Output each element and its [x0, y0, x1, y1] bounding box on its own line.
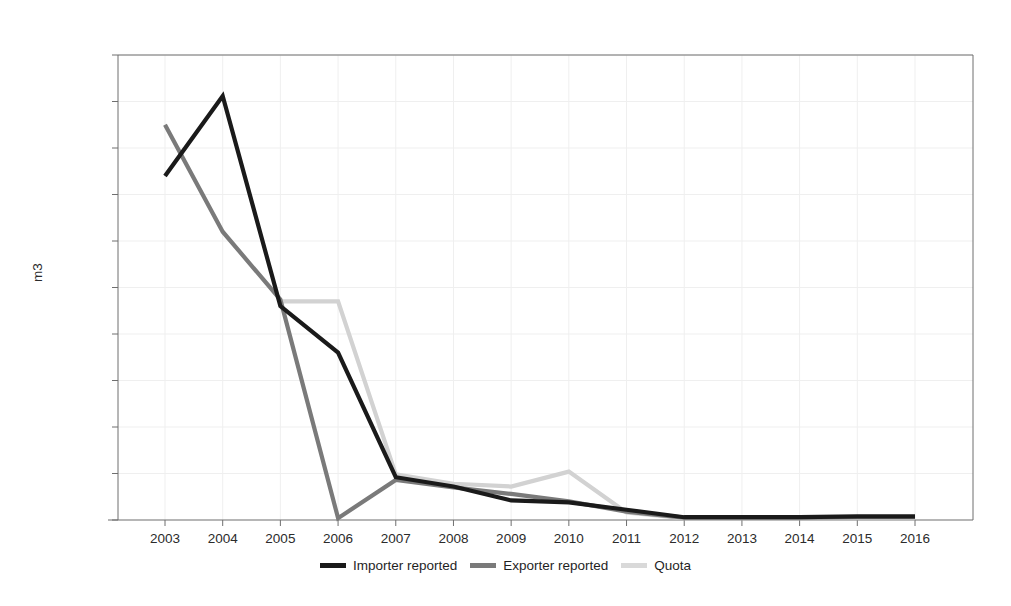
plot-area	[0, 0, 1011, 606]
series-line	[165, 125, 915, 518]
legend-item[interactable]: Quota	[621, 558, 691, 573]
legend-item[interactable]: Importer reported	[320, 558, 457, 573]
chart-container: m3 05,00010,00015,00020,00025,00030,0003…	[0, 0, 1011, 606]
x-axis-ticks	[165, 520, 915, 526]
chart-legend: Importer reportedExporter reportedQuota	[0, 558, 1011, 573]
legend-label: Quota	[654, 558, 691, 573]
legend-swatch-icon	[320, 563, 346, 568]
y-axis-ticks	[112, 55, 118, 520]
series-line	[165, 96, 915, 517]
legend-label: Exporter reported	[503, 558, 608, 573]
legend-item[interactable]: Exporter reported	[470, 558, 608, 573]
legend-swatch-icon	[621, 563, 647, 568]
legend-swatch-icon	[470, 563, 496, 568]
gridlines	[118, 55, 973, 520]
legend-label: Importer reported	[353, 558, 457, 573]
